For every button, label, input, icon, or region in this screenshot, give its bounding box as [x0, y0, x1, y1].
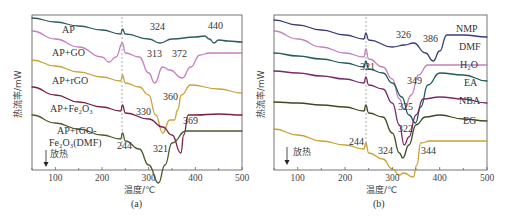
peak-label-325: 325 [398, 101, 413, 112]
panel-a: 100200300400500 AP AP+GO AP+rGO AP+Fe₂O₃… [12, 15, 249, 210]
exothermic-note-b: 放热 [293, 146, 311, 157]
series-label-ap-go: AP+GO [52, 47, 85, 58]
exothermic-arrow-icon-a [44, 162, 49, 167]
series-label-ap-rgo-fe2o3-line2: Fe₂O₃(DMF) [49, 137, 102, 149]
peak-label-313: 313 [147, 48, 162, 59]
peak-label-360: 360 [163, 91, 178, 102]
series-label-eg: EG [463, 115, 476, 126]
peak-label-349: 349 [407, 75, 422, 86]
x-axis-title-a: 温度/℃ [124, 184, 155, 195]
series-label-nmp: NMP [456, 23, 478, 34]
peak-label-326: 326 [396, 29, 411, 40]
x-tick-label: 300 [385, 173, 400, 183]
peak-label-372: 372 [172, 48, 187, 59]
series-label-dmf: DMF [459, 41, 481, 52]
series-label-ap-rgo-fe2o3-line1: AP+rGO- [57, 125, 97, 136]
peak-label-244-b: 244 [349, 136, 364, 147]
x-tick-label: 100 [291, 173, 306, 183]
peak-label-330: 330 [136, 106, 151, 117]
peak-label-440: 440 [208, 20, 223, 31]
x-tick-label: 400 [188, 173, 203, 183]
x-tick-label: 200 [338, 173, 353, 183]
x-tick-label: 500 [480, 173, 495, 183]
peak-label-322: 322 [398, 123, 413, 134]
x-tick-label: 300 [142, 173, 157, 183]
x-tick-label: 500 [235, 173, 250, 183]
peak-label-244-a: 244 [117, 140, 132, 151]
x-tick-label: 400 [433, 173, 448, 183]
dsc-figure: 100200300400500 AP AP+GO AP+rGO AP+Fe₂O₃… [0, 0, 506, 218]
x-ticks-b: 100200300400500 [274, 167, 494, 183]
series-label-h2o: H₂O [460, 59, 478, 70]
curve-dmf [274, 31, 487, 109]
series-label-ap-rgo: AP+rGO [52, 75, 88, 86]
peak-label-324: 324 [150, 21, 165, 32]
series-label-ap: AP [62, 24, 75, 35]
x-tick-label: 100 [48, 173, 63, 183]
x-tick-label: 200 [95, 173, 110, 183]
curve-ea [274, 71, 487, 145]
panel-caption-a: (a) [131, 198, 142, 210]
exothermic-arrow-icon-b [285, 160, 290, 165]
curve-h2o [274, 53, 487, 123]
peak-label-369: 369 [183, 115, 198, 126]
y-axis-title-b: 热流率/mW [255, 70, 266, 118]
x-axis-title-b: 温度/℃ [366, 184, 397, 195]
peak-label-321: 321 [360, 61, 375, 72]
exothermic-note-a: 放热 [50, 148, 68, 159]
series-label-nba: NBA [459, 95, 481, 106]
peak-label-386: 386 [423, 33, 438, 44]
series-label-ap-fe2o3: AP+Fe₂O₃ [50, 103, 93, 114]
panel-b: 100200300400500 NMP DMF H₂O EA NBA EG 32… [255, 15, 494, 210]
y-axis-title-a: 热流率/mW [12, 70, 23, 118]
x-ticks-a: 100200300400500 [32, 167, 249, 183]
peak-label-324: 324 [378, 145, 393, 156]
panel-caption-b: (b) [373, 198, 385, 210]
peak-label-344: 344 [421, 145, 436, 156]
series-label-ea: EA [464, 77, 478, 88]
peak-label-321: 321 [153, 143, 168, 154]
